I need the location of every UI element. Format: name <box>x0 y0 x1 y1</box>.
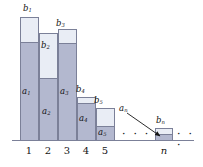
label-b3-sub: 3 <box>62 22 65 28</box>
label-a-n: an <box>119 104 127 113</box>
label-b4: b4 <box>76 85 85 94</box>
x-tick-1: 1 <box>23 146 35 156</box>
label-a2: a2 <box>42 107 50 116</box>
label-b-n-sub: n <box>162 119 165 125</box>
label-b2-sub: 2 <box>47 44 50 50</box>
label-b4-sub: 4 <box>82 88 85 94</box>
x-tick-n: n <box>158 146 170 156</box>
label-b5-sub: 5 <box>100 99 103 105</box>
x-tick-3: 3 <box>61 146 73 156</box>
label-a5: a5 <box>98 128 106 137</box>
label-b2: b2 <box>41 41 50 50</box>
stacked-bar-diagram: b1 b2 b3 b4 b5 a1 a2 a3 a4 a5 an bn <box>0 0 203 167</box>
label-a1: a1 <box>22 87 30 96</box>
label-b1-sub: 1 <box>29 7 32 13</box>
label-b3: b3 <box>56 19 65 28</box>
x-axis-line <box>12 140 194 141</box>
label-a1-sub: 1 <box>27 90 30 96</box>
label-a-n-sub: n <box>124 107 127 113</box>
ellipsis-left: · · · <box>122 129 150 140</box>
label-a5-sub: 5 <box>103 131 106 137</box>
label-b1: b1 <box>23 4 32 13</box>
label-b2-base: b <box>41 40 46 50</box>
label-b4-base: b <box>76 84 81 94</box>
label-b1-base: b <box>23 3 28 13</box>
bar-5-segment-b <box>96 108 115 127</box>
label-a2-sub: 2 <box>47 110 50 116</box>
label-b3-base: b <box>56 18 61 28</box>
label-a4: a4 <box>79 114 87 123</box>
x-tick-5: 5 <box>99 146 111 156</box>
label-b-n: bn <box>156 116 165 125</box>
ellipsis-right: · · · <box>177 129 203 151</box>
label-b5-base: b <box>94 95 99 105</box>
label-b5: b5 <box>94 96 103 105</box>
label-a4-sub: 4 <box>84 117 87 123</box>
label-a3-sub: 3 <box>65 90 68 96</box>
label-b-n-base: b <box>156 115 161 125</box>
label-a3: a3 <box>60 87 68 96</box>
x-tick-2: 2 <box>42 146 54 156</box>
bar-3-segment-b <box>58 29 77 44</box>
x-tick-4: 4 <box>80 146 92 156</box>
bar-1-segment-b <box>20 17 39 43</box>
